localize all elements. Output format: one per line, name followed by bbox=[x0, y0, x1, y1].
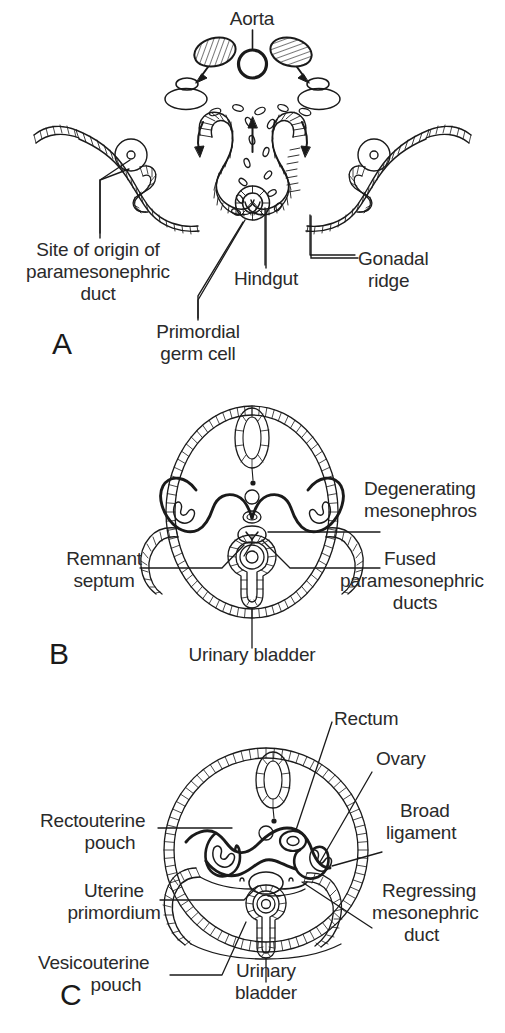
label-site-of-origin-line2: paramesonephric bbox=[8, 261, 188, 283]
panel-a-leaders bbox=[0, 0, 505, 370]
body-wall-rungs bbox=[166, 406, 338, 618]
label-vesico-line1: Vesicouterine bbox=[38, 952, 188, 974]
label-regressing-line3: duct bbox=[404, 924, 504, 946]
label-site-of-origin-line3: duct bbox=[8, 283, 188, 305]
label-rectouterine-line1: Rectouterine bbox=[40, 810, 190, 832]
label-gonadal-line2: ridge bbox=[368, 270, 498, 292]
label-degenerating-line2: mesonephros bbox=[364, 500, 505, 522]
mesonephros-tubule-squiggle-left bbox=[174, 502, 195, 523]
label-ovary: Ovary bbox=[376, 748, 486, 770]
panel-letter-a: A bbox=[52, 327, 72, 361]
label-remnant-line2: septum bbox=[54, 570, 154, 592]
broad-ligament-floor bbox=[200, 877, 307, 896]
label-rectouterine-line2: pouch bbox=[40, 832, 180, 854]
panel-letter-c: C bbox=[60, 978, 82, 1012]
leader-site-of-origin bbox=[100, 169, 129, 238]
label-uterine-line2: primordium bbox=[38, 902, 190, 924]
panel-b-illustration bbox=[0, 380, 505, 680]
label-fused-line1: Fused bbox=[384, 548, 505, 570]
label-urinary-c-line2: bladder bbox=[206, 982, 326, 1004]
label-broad-line1: Broad bbox=[400, 800, 505, 822]
pouch-floor-outline bbox=[206, 860, 296, 876]
leader-ovary bbox=[320, 772, 372, 862]
broad-ligament-right bbox=[304, 873, 343, 947]
leader-rectum bbox=[296, 722, 332, 830]
label-aorta: Aorta bbox=[202, 8, 302, 30]
panel-letter-b: B bbox=[49, 637, 69, 671]
remnant-septum bbox=[244, 543, 252, 556]
neural-tube bbox=[256, 752, 290, 824]
label-site-of-origin-line1: Site of origin of bbox=[8, 239, 188, 261]
embryology-figure: Aorta Site of origin of paramesonephric … bbox=[0, 0, 505, 1033]
mesonephros-tubule-squiggle-right bbox=[310, 502, 331, 523]
body-wall-oval bbox=[166, 406, 338, 618]
label-rectum: Rectum bbox=[334, 708, 454, 730]
regressing-mesonephric-duct-right bbox=[289, 878, 293, 881]
label-urinary-bladder-b: Urinary bladder bbox=[172, 644, 332, 666]
label-urinary-c-line1: Urinary bbox=[206, 960, 326, 982]
label-degenerating-line1: Degenerating bbox=[364, 478, 505, 500]
label-uterine-line1: Uterine bbox=[54, 880, 174, 902]
label-fused-line2: paramesonephric bbox=[340, 570, 505, 592]
label-primordial-line1: Primordial bbox=[138, 321, 258, 343]
regressing-mesonephric-duct-left bbox=[240, 878, 244, 881]
label-fused-line3: ducts bbox=[340, 592, 490, 614]
leader-gonadal-ridge bbox=[311, 216, 358, 258]
label-gonadal-line1: Gonadal bbox=[358, 248, 488, 270]
label-hindgut: Hindgut bbox=[216, 268, 316, 290]
degenerating-mesonephros bbox=[161, 478, 344, 532]
neural-tube bbox=[235, 408, 269, 486]
label-remnant-line1: Remnant bbox=[54, 548, 154, 570]
body-wall-circle bbox=[164, 748, 368, 952]
label-primordial-line2: germ cell bbox=[138, 343, 258, 365]
label-broad-line2: ligament bbox=[386, 822, 505, 844]
label-regressing-line2: mesonephric bbox=[372, 902, 505, 924]
label-regressing-line1: Regressing bbox=[382, 880, 505, 902]
